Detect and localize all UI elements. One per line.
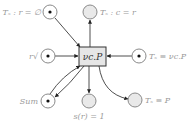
transition: νc.P	[79, 47, 106, 66]
place-label-bottom-left: Sum	[20, 97, 39, 106]
place-top-center	[83, 5, 97, 19]
place-circle	[83, 5, 97, 19]
place-label-top-center: Tₛ : c = r	[100, 8, 137, 17]
transition-label: νc.P	[83, 52, 103, 62]
arc-top-left-to-transition	[55, 18, 80, 47]
token-icon	[46, 99, 49, 102]
place-label-bottom-center: s(r) = 1	[73, 112, 104, 121]
place-circle	[128, 93, 142, 107]
token-icon	[137, 54, 140, 57]
arc-transition-to-sum	[55, 66, 84, 97]
place-top-left	[43, 5, 57, 19]
arc-sum-to-transition	[50, 66, 80, 94]
token-icon	[46, 54, 49, 57]
place-label-right: Tₛ ≡ νc.P	[149, 52, 187, 61]
place-right	[132, 49, 146, 63]
place-label-top-left: Tₛ : r = ∅	[3, 8, 42, 17]
place-bottom-right	[128, 93, 142, 107]
place-bottom-left	[41, 94, 55, 108]
arc-transition-to-bottom-right	[99, 66, 128, 99]
place-circle	[82, 94, 96, 108]
place-left	[41, 49, 55, 63]
petri-net-diagram: Tₛ : r = ∅ Tₛ : c = r r√ Tₛ ≡ νc.P Sum s…	[0, 0, 192, 123]
token-icon	[48, 10, 51, 13]
place-label-left: r√	[29, 52, 39, 61]
place-label-bottom-right: Tₛ ≡ P	[145, 96, 171, 105]
place-bottom-center	[82, 94, 96, 108]
